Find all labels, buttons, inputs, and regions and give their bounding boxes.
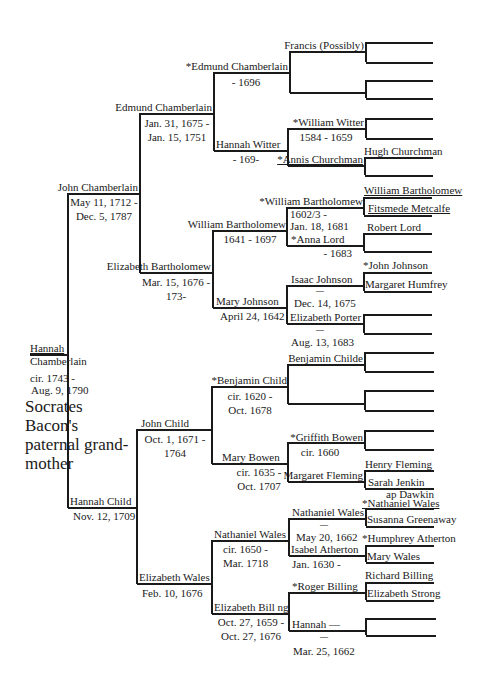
connector <box>211 540 213 614</box>
connector <box>365 618 367 635</box>
connector <box>286 207 288 246</box>
person-edmund-chamberlain: Edmund Chamberlain <box>100 101 212 113</box>
dash: — <box>310 285 330 297</box>
connector <box>366 80 433 82</box>
connector <box>365 449 434 451</box>
connector <box>366 562 434 564</box>
person-william-bartholomew-gen6: William Bartholomew <box>364 184 462 196</box>
person-elizabeth-wales: Elizabeth Wales <box>139 571 210 583</box>
person-hannah: Hannah — <box>292 618 340 630</box>
dash: — <box>314 631 334 643</box>
person-elizabeth-billing: Elizabeth Bill ng <box>214 601 289 613</box>
connector <box>288 518 290 556</box>
person-dates: Aug. 13, 1683 <box>291 336 354 348</box>
connector <box>212 463 289 465</box>
person-dates: Oct. 1707 <box>228 480 290 492</box>
person-dates: 1764 <box>139 447 211 459</box>
connector <box>213 72 215 151</box>
connector <box>365 175 433 177</box>
root-name-line2: Chamberlain <box>30 355 87 367</box>
connector <box>363 314 365 333</box>
person-dates: - 1696 <box>216 76 276 88</box>
connector <box>365 371 434 373</box>
person-benjamin-child: *Benjamin Child <box>200 374 287 386</box>
person-dates: 1641 - 1697 <box>215 233 285 245</box>
connector <box>365 470 434 472</box>
person-dates: Mar. 25, 1662 <box>293 645 355 657</box>
connector <box>363 197 365 215</box>
connector <box>366 582 434 584</box>
connector <box>140 113 214 115</box>
person-anna-lord: *Anna Lord <box>291 233 344 245</box>
connector <box>364 314 432 316</box>
person-edmund-chamberlain-sr: *Edmund Chamberlain <box>160 60 288 72</box>
connector <box>364 430 366 449</box>
person-dates: 1602/3 - <box>290 208 327 220</box>
connector <box>364 352 366 371</box>
person-mary-wales: Mary Wales <box>367 550 420 562</box>
connector <box>363 233 365 251</box>
person-nathaniel-wales: Nathaniel Wales <box>214 528 286 540</box>
person-dates: Oct. 1, 1671 - <box>139 433 211 445</box>
connector <box>365 157 433 159</box>
person-margaret-humfrey: Margaret Humfrey <box>365 278 448 290</box>
connector <box>212 230 214 308</box>
person-dates: May 20, 1662 <box>296 531 357 543</box>
connector <box>365 390 434 392</box>
person-nathaniel-wales-sr: Nathaniel Wales <box>280 506 364 518</box>
connector <box>139 113 141 273</box>
person-dates: Mar. 1718 <box>223 557 268 569</box>
person-mary-bowen: Mary Bowen <box>222 451 280 463</box>
connector <box>366 118 433 120</box>
connector <box>289 555 367 557</box>
root-dates-line2: Aug. 9, 1790 <box>31 384 88 396</box>
connector <box>366 618 436 620</box>
connector <box>68 193 140 195</box>
person-john-chamberlain: John Chamberlain <box>30 181 138 193</box>
person-elizabeth-porter: Elizabeth Porter <box>290 311 361 323</box>
connector <box>287 364 289 404</box>
connector <box>364 233 432 235</box>
connector <box>366 138 433 140</box>
root-name-line1: Hannah <box>30 342 64 354</box>
person-hannah-witter: Hannah Witter <box>216 138 280 150</box>
connector <box>366 526 434 528</box>
person-sarah-jenkin: Sarah Jenkin <box>368 476 425 488</box>
person-dates: cir. 1650 - <box>223 543 268 555</box>
connector <box>288 481 366 483</box>
root-dates-line1: cir. 1743 - <box>30 372 75 384</box>
connector <box>365 42 367 62</box>
connector <box>364 197 432 199</box>
person-dates: cir. 1660 <box>290 446 350 458</box>
person-dates: - 1683 <box>300 247 352 259</box>
person-dates: Oct. 1678 <box>215 404 285 416</box>
connector <box>288 403 366 405</box>
connector <box>364 470 366 488</box>
person-dates: Dec. 5, 1787 <box>70 210 138 222</box>
person-dates: Oct. 27, 1676 <box>213 630 289 642</box>
person-margaret-fleming: Margaret Fleming <box>270 469 363 481</box>
connector <box>366 42 433 44</box>
connector <box>288 364 366 366</box>
dash: — <box>310 324 330 336</box>
person-dates: Dec. 14, 1675 <box>294 297 356 309</box>
connector <box>289 51 291 93</box>
person-dates: - 169- <box>216 153 276 165</box>
connector <box>214 150 289 152</box>
person-dates: 173- <box>140 290 212 302</box>
connector <box>211 386 213 464</box>
person-mary-johnson: Mary Johnson <box>216 295 279 307</box>
connector <box>364 390 366 410</box>
connector <box>290 92 367 94</box>
person-hugh-churchman: Hugh Churchman <box>364 145 443 157</box>
connector <box>364 272 432 274</box>
connector <box>140 272 213 274</box>
dash: — <box>314 519 334 531</box>
person-susanna-greenaway: Susanna Greenaway <box>367 513 457 525</box>
person-dates: Jan. 15, 1751 <box>142 131 212 143</box>
person-hannah-child: Hannah Child <box>70 495 131 507</box>
connector <box>136 429 138 584</box>
person-john-johnson: *John Johnson <box>363 259 428 271</box>
person-william-witter: *William Witter <box>280 116 364 128</box>
connector <box>288 165 366 167</box>
